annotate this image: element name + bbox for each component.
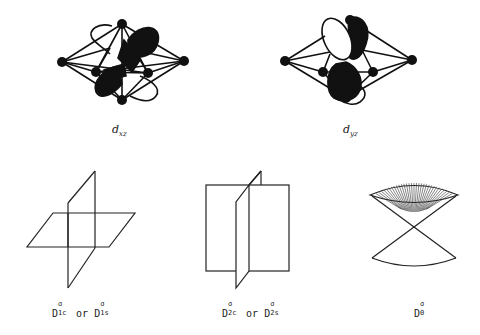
label-sub: yz xyxy=(350,130,358,138)
d0-double-cone xyxy=(370,183,458,266)
label-sub: xz xyxy=(119,130,127,138)
label-sub: 1s xyxy=(100,309,108,317)
diagram-canvas xyxy=(0,0,480,335)
vertex xyxy=(345,15,355,25)
d1-horizontal-plane xyxy=(27,213,135,247)
vertex xyxy=(91,67,101,77)
dyz-octahedron xyxy=(285,14,412,105)
vertex xyxy=(179,56,189,66)
label-main: d xyxy=(343,123,350,136)
dxz-octahedron xyxy=(62,24,184,101)
label-sup: σ xyxy=(100,300,104,308)
label-dxz: dxz xyxy=(112,123,127,138)
d2-planes xyxy=(206,171,289,288)
label-sub: 2s xyxy=(270,309,278,317)
vertex xyxy=(368,67,378,77)
label-sub: 2c xyxy=(228,309,236,317)
d0-lower-rim xyxy=(372,258,456,266)
label-d2: Dσ2c or Dσ2s xyxy=(222,305,282,319)
label-dyz: dyz xyxy=(343,123,358,138)
vertex xyxy=(318,67,328,77)
label-sup: σ xyxy=(58,300,62,308)
vertex xyxy=(117,95,127,105)
vertex xyxy=(143,68,153,78)
vertex xyxy=(341,93,351,103)
label-sub: 1c xyxy=(58,309,66,317)
d2-front-plane xyxy=(236,185,249,288)
vertex xyxy=(57,57,67,67)
vertex xyxy=(407,55,417,65)
label-sup: σ xyxy=(228,300,232,308)
label-joiner: or xyxy=(246,308,258,319)
vertex xyxy=(280,56,290,66)
label-joiner: or xyxy=(76,308,88,319)
d1-planes xyxy=(27,171,135,288)
label-sub: 0 xyxy=(420,309,424,317)
label-sup: σ xyxy=(270,300,274,308)
label-d0: Dσ0 xyxy=(414,305,432,319)
vertex xyxy=(117,19,127,29)
label-main: d xyxy=(112,123,119,136)
label-sup: σ xyxy=(420,300,424,308)
label-d1: Dσ1c or Dσ1s xyxy=(52,305,112,319)
